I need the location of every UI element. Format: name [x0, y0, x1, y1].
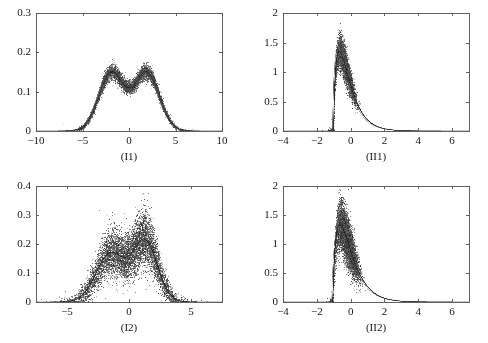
panel-caption-II1: (II1) — [336, 151, 416, 162]
ytick-label-I1-3: 0.3 — [0, 7, 31, 18]
ytick-label-I1-2: 0.2 — [0, 46, 31, 57]
xtick-label-I1-0: −10 — [16, 135, 56, 146]
xtick-label-I1-2: 0 — [109, 135, 149, 146]
ytick-label-II1-0: 0 — [235, 125, 278, 136]
ytick-label-I2-3: 0.3 — [0, 209, 31, 220]
xtick-label-II1-5: 6 — [432, 135, 472, 146]
xtick-label-II2-5: 6 — [432, 306, 472, 317]
figure-root: (I1) (II1) (I2) (II2) −10−5051000.10.20.… — [0, 0, 488, 343]
ytick-label-I2-1: 0.1 — [0, 267, 31, 278]
ytick-label-II1-4: 2 — [235, 7, 278, 18]
panel-caption-I2: (I2) — [89, 322, 169, 333]
ytick-label-II1-1: 0.5 — [235, 96, 278, 107]
ytick-label-II1-3: 1.5 — [235, 37, 278, 48]
panel-caption-I1: (I1) — [89, 151, 169, 162]
ytick-label-I2-4: 0.4 — [0, 180, 31, 191]
ytick-label-II2-0: 0 — [235, 296, 278, 307]
ytick-label-II1-2: 1 — [235, 66, 278, 77]
ytick-label-II2-1: 0.5 — [235, 267, 278, 278]
xtick-label-I1-3: 5 — [156, 135, 196, 146]
ytick-label-I2-2: 0.2 — [0, 238, 31, 249]
xtick-label-I2-0: −5 — [47, 306, 87, 317]
ytick-label-I1-1: 0.1 — [0, 86, 31, 97]
ytick-label-I1-0: 0 — [0, 125, 31, 136]
xtick-label-I1-4: 10 — [202, 135, 242, 146]
ytick-label-II2-3: 1.5 — [235, 209, 278, 220]
xtick-label-I1-1: −5 — [63, 135, 103, 146]
xtick-label-I2-2: 5 — [171, 306, 211, 317]
xtick-label-I2-1: 0 — [109, 306, 149, 317]
ytick-label-II2-2: 1 — [235, 238, 278, 249]
panel-caption-II2: (II2) — [336, 322, 416, 333]
ytick-label-I2-0: 0 — [0, 296, 31, 307]
ytick-label-II2-4: 2 — [235, 180, 278, 191]
